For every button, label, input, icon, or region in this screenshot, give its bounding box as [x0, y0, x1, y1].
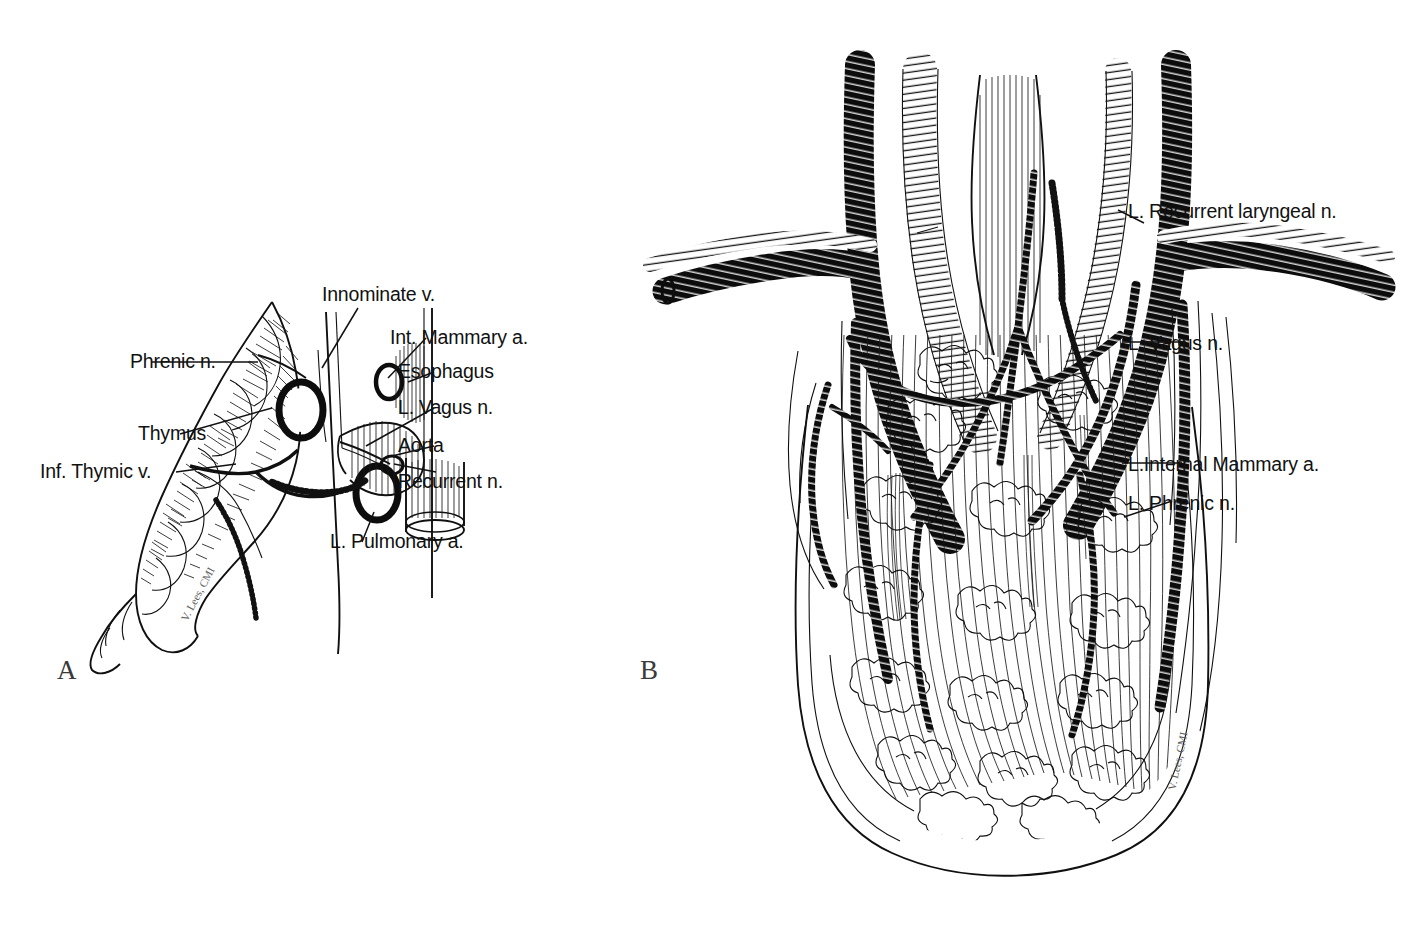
thymus-inferior-horn [90, 594, 136, 673]
pale-veins [902, 69, 1132, 441]
innominate-vein-ring [279, 382, 323, 438]
label-phrenic-nerve: Phrenic n. [130, 350, 216, 373]
figure-caption-strip [18, 926, 1368, 937]
label-esophagus: Esophagus [398, 360, 494, 383]
label-inferior-thymic-vein: Inf. Thymic v. [40, 460, 151, 483]
figure-root: Innominate v. Int. Mammary a. Phrenic n.… [0, 0, 1424, 937]
label-recurrent-nerve: Recurrent n. [398, 470, 503, 493]
label-left-recurrent-laryngeal-nerve: L. Recurrent laryngeal n. [1128, 200, 1337, 223]
right-pleural-lines [1200, 313, 1237, 731]
label-left-vagus-nerve: L. Vagus n. [398, 396, 493, 419]
panel-letter-b: B [640, 655, 658, 686]
label-aorta: Aorta [398, 434, 444, 457]
panel-b: L. Recurrent laryngeal n. L. Vagus n. L.… [620, 55, 1410, 895]
panel-letter-a: A [57, 655, 77, 686]
label-left-internal-mammary-artery: L.Internal Mammary a. [1128, 453, 1319, 476]
label-innominate-vein: Innominate v. [322, 283, 435, 306]
label-left-phrenic-nerve: L. Phrenic n. [1128, 492, 1235, 515]
label-internal-mammary-artery: Int. Mammary a. [390, 326, 528, 349]
label-left-pulmonary-artery: L. Pulmonary a. [330, 530, 464, 553]
label-left-vagus-nerve: L. Vagus n. [1128, 332, 1223, 355]
panel-a: Innominate v. Int. Mammary a. Phrenic n.… [40, 250, 600, 680]
left-vagus-nerve-strand [340, 442, 390, 464]
label-thymus: Thymus [138, 422, 206, 445]
